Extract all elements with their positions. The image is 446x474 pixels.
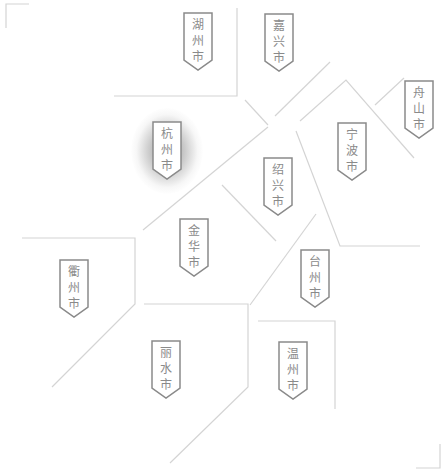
city-marker-huzhou[interactable]: 湖州市 — [183, 12, 213, 72]
city-label: 湖州市 — [183, 17, 213, 65]
city-marker-lishui[interactable]: 丽水市 — [151, 340, 181, 400]
city-marker-quzhou[interactable]: 衢州市 — [59, 259, 89, 319]
city-marker-taizhou[interactable]: 台州市 — [300, 249, 330, 309]
city-marker-hangzhou[interactable]: 杭州市 — [152, 121, 182, 181]
city-label: 杭州市 — [152, 126, 182, 174]
zhejiang-city-map: 湖州市 嘉兴市 舟山市 杭州市 宁波市 绍兴市 金华市 衢州市 台州市 丽水市 — [0, 0, 446, 474]
city-label: 温州市 — [278, 346, 308, 394]
region-boundaries — [0, 0, 446, 474]
city-label: 丽水市 — [151, 345, 181, 393]
corner-bracket-bottom-right — [416, 444, 440, 468]
city-label: 宁波市 — [337, 127, 367, 175]
corner-bracket-top-left — [6, 4, 29, 28]
city-marker-jinhua[interactable]: 金华市 — [179, 218, 209, 278]
city-marker-shaoxing[interactable]: 绍兴市 — [263, 157, 293, 217]
city-label: 舟山市 — [404, 85, 434, 133]
city-label: 台州市 — [300, 254, 330, 302]
city-label: 嘉兴市 — [264, 18, 294, 66]
city-marker-zhoushan[interactable]: 舟山市 — [404, 80, 434, 140]
city-marker-jiaxing[interactable]: 嘉兴市 — [264, 13, 294, 73]
city-label: 金华市 — [179, 223, 209, 271]
city-marker-ningbo[interactable]: 宁波市 — [337, 122, 367, 182]
city-marker-wenzhou[interactable]: 温州市 — [278, 341, 308, 401]
city-label: 衢州市 — [59, 264, 89, 312]
city-label: 绍兴市 — [263, 162, 293, 210]
